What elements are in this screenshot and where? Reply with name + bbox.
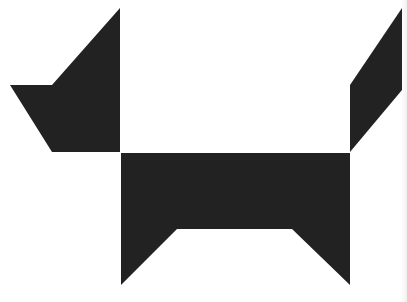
tangram-dog-figure (0, 0, 407, 302)
dog-head-piece (10, 8, 120, 152)
dog-tail-piece (350, 8, 402, 152)
dog-body-piece (121, 153, 350, 285)
